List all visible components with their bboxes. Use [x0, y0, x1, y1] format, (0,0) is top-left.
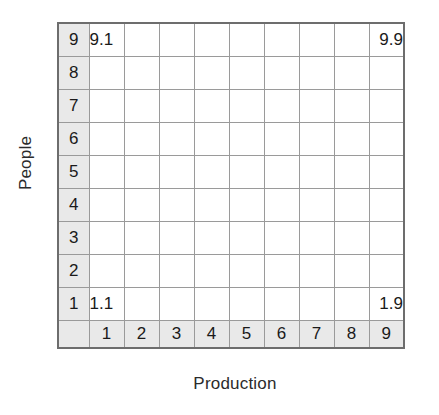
cell-p3-x8[interactable]: [334, 221, 369, 254]
table-row: 7: [58, 89, 404, 122]
cell-p4-x4[interactable]: [194, 188, 229, 221]
cell-p9-x5[interactable]: [229, 23, 264, 56]
cell-p5-x7[interactable]: [299, 155, 334, 188]
cell-p1-x6[interactable]: [264, 287, 299, 320]
cell-p9-x7[interactable]: [299, 23, 334, 56]
cell-p8-x4[interactable]: [194, 56, 229, 89]
table-row: 2: [58, 254, 404, 287]
cell-p6-x8[interactable]: [334, 122, 369, 155]
cell-p5-x9[interactable]: [369, 155, 404, 188]
cell-p4-x9[interactable]: [369, 188, 404, 221]
cell-p9-x3[interactable]: [159, 23, 194, 56]
row-header-4: 4: [58, 188, 89, 221]
col-header-8: 8: [334, 320, 369, 348]
column-header-row: 1 2 3 4 5 6 7 8 9: [58, 320, 404, 348]
cell-p5-x1[interactable]: [89, 155, 124, 188]
cell-p6-x1[interactable]: [89, 122, 124, 155]
col-header-1: 1: [89, 320, 124, 348]
cell-p8-x9[interactable]: [369, 56, 404, 89]
cell-p6-x4[interactable]: [194, 122, 229, 155]
cell-p4-x3[interactable]: [159, 188, 194, 221]
cell-p7-x3[interactable]: [159, 89, 194, 122]
cell-p5-x5[interactable]: [229, 155, 264, 188]
cell-p4-x2[interactable]: [124, 188, 159, 221]
managerial-grid-figure: People 9 9.1 9.9 8: [0, 0, 439, 415]
cell-p1-x3[interactable]: [159, 287, 194, 320]
cell-p2-x7[interactable]: [299, 254, 334, 287]
cell-p2-x1[interactable]: [89, 254, 124, 287]
cell-p9-x6[interactable]: [264, 23, 299, 56]
cell-p3-x5[interactable]: [229, 221, 264, 254]
cell-p3-x9[interactable]: [369, 221, 404, 254]
cell-p6-x3[interactable]: [159, 122, 194, 155]
cell-p1-x9[interactable]: 1.9: [369, 287, 404, 320]
cell-p6-x7[interactable]: [299, 122, 334, 155]
cell-p4-x1[interactable]: [89, 188, 124, 221]
table-row: 6: [58, 122, 404, 155]
cell-p4-x5[interactable]: [229, 188, 264, 221]
cell-p8-x5[interactable]: [229, 56, 264, 89]
cell-p8-x7[interactable]: [299, 56, 334, 89]
cell-p9-x1[interactable]: 9.1: [89, 23, 124, 56]
cell-p7-x2[interactable]: [124, 89, 159, 122]
col-header-5: 5: [229, 320, 264, 348]
cell-p1-x4[interactable]: [194, 287, 229, 320]
cell-p3-x7[interactable]: [299, 221, 334, 254]
cell-p2-x3[interactable]: [159, 254, 194, 287]
cell-p9-x8[interactable]: [334, 23, 369, 56]
cell-p1-x5[interactable]: [229, 287, 264, 320]
cell-p4-x6[interactable]: [264, 188, 299, 221]
cell-p3-x4[interactable]: [194, 221, 229, 254]
cell-p2-x8[interactable]: [334, 254, 369, 287]
col-header-3: 3: [159, 320, 194, 348]
cell-p9-x4[interactable]: [194, 23, 229, 56]
cell-p7-x7[interactable]: [299, 89, 334, 122]
cell-p6-x5[interactable]: [229, 122, 264, 155]
cell-p7-x8[interactable]: [334, 89, 369, 122]
cell-p7-x5[interactable]: [229, 89, 264, 122]
cell-p9-x9[interactable]: 9.9: [369, 23, 404, 56]
cell-p5-x6[interactable]: [264, 155, 299, 188]
cell-p5-x8[interactable]: [334, 155, 369, 188]
row-header-5: 5: [58, 155, 89, 188]
cell-p2-x5[interactable]: [229, 254, 264, 287]
cell-p7-x6[interactable]: [264, 89, 299, 122]
cell-p5-x4[interactable]: [194, 155, 229, 188]
cell-p7-x1[interactable]: [89, 89, 124, 122]
cell-p8-x6[interactable]: [264, 56, 299, 89]
cell-p3-x3[interactable]: [159, 221, 194, 254]
cell-p8-x2[interactable]: [124, 56, 159, 89]
col-header-7: 7: [299, 320, 334, 348]
cell-p8-x8[interactable]: [334, 56, 369, 89]
cell-p6-x9[interactable]: [369, 122, 404, 155]
cell-p4-x8[interactable]: [334, 188, 369, 221]
cell-p4-x7[interactable]: [299, 188, 334, 221]
table-row: 4: [58, 188, 404, 221]
cell-p7-x4[interactable]: [194, 89, 229, 122]
cell-p1-x8[interactable]: [334, 287, 369, 320]
cell-p6-x6[interactable]: [264, 122, 299, 155]
cell-p9-x2[interactable]: [124, 23, 159, 56]
cell-p1-x2[interactable]: [124, 287, 159, 320]
cell-p7-x9[interactable]: [369, 89, 404, 122]
col-header-2: 2: [124, 320, 159, 348]
cell-p3-x6[interactable]: [264, 221, 299, 254]
cell-p2-x4[interactable]: [194, 254, 229, 287]
cell-p1-x7[interactable]: [299, 287, 334, 320]
cell-p3-x2[interactable]: [124, 221, 159, 254]
col-header-6: 6: [264, 320, 299, 348]
cell-p2-x6[interactable]: [264, 254, 299, 287]
cell-p2-x9[interactable]: [369, 254, 404, 287]
cell-p3-x1[interactable]: [89, 221, 124, 254]
y-axis-title: People: [13, 103, 39, 223]
cell-p5-x3[interactable]: [159, 155, 194, 188]
cell-p5-x2[interactable]: [124, 155, 159, 188]
cell-p6-x2[interactable]: [124, 122, 159, 155]
row-header-9: 9: [58, 23, 89, 56]
cell-p2-x2[interactable]: [124, 254, 159, 287]
cell-p1-x1[interactable]: 1.1: [89, 287, 124, 320]
table-row: 9 9.1 9.9: [58, 23, 404, 56]
cell-p8-x3[interactable]: [159, 56, 194, 89]
table-row: 1 1.1 1.9: [58, 287, 404, 320]
cell-p8-x1[interactable]: [89, 56, 124, 89]
